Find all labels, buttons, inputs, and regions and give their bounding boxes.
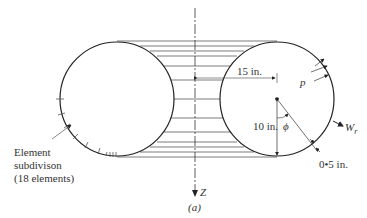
pressure-label: p	[300, 76, 306, 89]
angle-phi-label: ϕ	[283, 120, 289, 133]
z-axis-arrow-icon	[192, 190, 198, 197]
dimension-10in-label: 10 in.	[253, 120, 278, 133]
annotation-line-1: Element	[14, 146, 74, 159]
dimension-15in-label: 15 in.	[237, 65, 262, 78]
radial-displacement-label: Wr	[345, 121, 357, 138]
dimension-thickness-label: 0•5 in.	[319, 158, 348, 171]
z-axis-label: Z	[200, 186, 206, 199]
figure-caption: (a)	[188, 201, 201, 214]
annotation-line-3: (18 elements)	[14, 172, 74, 185]
torus-cross-section-diagram	[0, 0, 367, 218]
left-tube-section	[60, 42, 174, 156]
annotation-line-2: subdivison	[14, 159, 74, 172]
element-subdivision-annotation: Element subdivison (18 elements)	[14, 146, 74, 185]
